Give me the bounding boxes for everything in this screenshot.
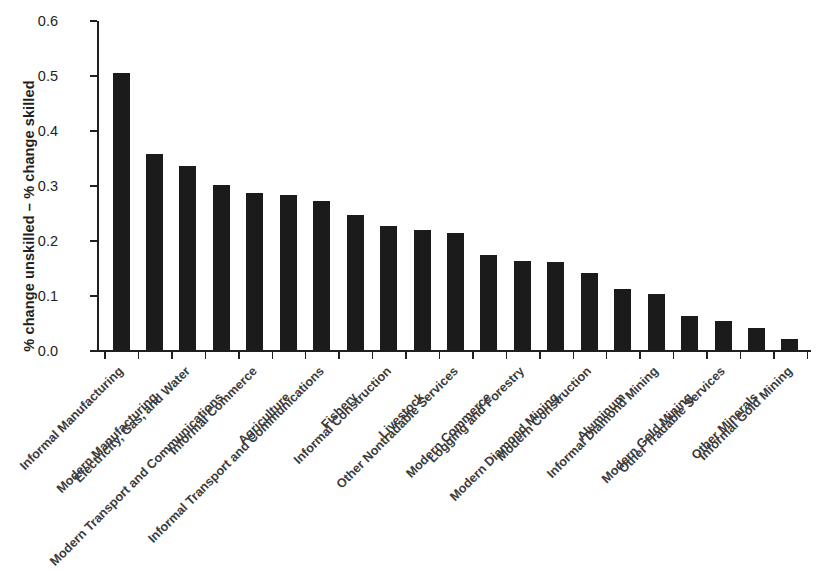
y-tick-label: 0.0	[24, 343, 58, 359]
x-tick-mark	[472, 352, 473, 359]
y-tick-label: 0.2	[24, 233, 58, 249]
bar	[179, 166, 196, 351]
x-tick-mark	[807, 352, 808, 359]
bar	[648, 294, 665, 351]
bar	[280, 195, 297, 351]
y-tick-mark	[90, 295, 97, 297]
y-tick-label: 0.4	[24, 123, 58, 139]
y-tick-label: 0.5	[24, 68, 58, 84]
bar	[581, 273, 598, 351]
bar	[614, 289, 631, 351]
x-tick-mark	[506, 352, 507, 359]
y-tick-mark	[90, 75, 97, 77]
x-tick-mark	[405, 352, 406, 359]
bar	[347, 215, 364, 351]
x-tick-mark	[439, 352, 440, 359]
plot-area	[97, 21, 811, 351]
y-tick-label: 0.6	[24, 13, 58, 29]
bar	[547, 262, 564, 351]
bar	[113, 73, 130, 351]
x-tick-mark	[773, 352, 774, 359]
y-tick-mark	[90, 185, 97, 187]
x-tick-mark	[272, 352, 273, 359]
y-tick-mark	[90, 20, 97, 22]
bar	[748, 328, 765, 351]
bar	[447, 233, 464, 351]
bar	[414, 230, 431, 351]
bar	[781, 339, 798, 351]
x-tick-mark	[205, 352, 206, 359]
x-tick-mark	[138, 352, 139, 359]
bar	[146, 154, 163, 351]
bar	[313, 201, 330, 351]
x-tick-mark	[706, 352, 707, 359]
bar	[715, 321, 732, 351]
y-tick-label: 0.1	[24, 288, 58, 304]
x-tick-mark	[573, 352, 574, 359]
x-tick-mark	[305, 352, 306, 359]
y-tick-label: 0.3	[24, 178, 58, 194]
bar	[246, 193, 263, 351]
x-tick-mark	[104, 352, 105, 359]
x-tick-mark	[238, 352, 239, 359]
x-tick-mark	[673, 352, 674, 359]
y-tick-mark	[90, 130, 97, 132]
x-tick-mark	[740, 352, 741, 359]
x-tick-mark	[639, 352, 640, 359]
bar	[514, 261, 531, 351]
bar	[681, 316, 698, 351]
x-tick-mark	[606, 352, 607, 359]
y-tick-mark	[90, 240, 97, 242]
x-tick-mark	[539, 352, 540, 359]
bar	[213, 185, 230, 351]
y-tick-mark	[90, 350, 97, 352]
bar	[480, 255, 497, 351]
bar	[380, 226, 397, 351]
x-tick-mark	[171, 352, 172, 359]
x-tick-mark	[372, 352, 373, 359]
x-tick-mark	[338, 352, 339, 359]
